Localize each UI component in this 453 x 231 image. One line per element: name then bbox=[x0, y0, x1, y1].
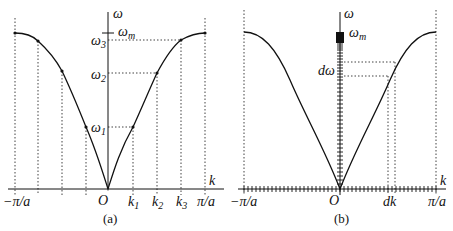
d-omega-label: dω bbox=[318, 63, 335, 78]
pi-a-label: π/a bbox=[197, 194, 215, 209]
d-k-label: dk bbox=[383, 194, 397, 209]
origin-label-b: O bbox=[329, 193, 339, 208]
origin-label: O bbox=[98, 193, 108, 208]
dispersion-diagram: ω ωm ω3 ω2 ω1 k O −π/a π/a k1 k2 k3 (a) bbox=[0, 0, 453, 231]
dispersion-curve bbox=[15, 33, 205, 189]
k2-label: k2 bbox=[152, 194, 163, 211]
omega-2-label: ω2 bbox=[91, 67, 106, 84]
panel-a: ω ωm ω3 ω2 ω1 k O −π/a π/a k1 k2 k3 (a) bbox=[3, 6, 224, 226]
omega-m-label-b: ωm bbox=[349, 25, 366, 42]
k-axis-label-b: k bbox=[440, 173, 447, 188]
pi-a-label-b: π/a bbox=[428, 194, 446, 209]
omega-3-label: ω3 bbox=[91, 33, 106, 50]
omega-axis-label: ω bbox=[113, 6, 123, 21]
caption-a: (a) bbox=[103, 211, 117, 226]
k3-label: k3 bbox=[176, 194, 187, 211]
omega-axis-label-b: ω bbox=[344, 6, 354, 21]
omega-guide-lines bbox=[108, 40, 181, 127]
omega-1-label: ω1 bbox=[91, 120, 106, 137]
caption-b: (b) bbox=[334, 211, 349, 226]
panel-b: ω ωm dω k O dk −π/a π/a (b) bbox=[230, 6, 447, 226]
neg-pi-a-label-b: −π/a bbox=[230, 194, 257, 209]
neg-pi-a-label: −π/a bbox=[3, 194, 30, 209]
omega-m-dense-block bbox=[336, 32, 344, 43]
k-axis-label: k bbox=[209, 173, 216, 188]
omega-m-label: ωm bbox=[118, 24, 135, 41]
k1-label: k1 bbox=[128, 194, 139, 211]
